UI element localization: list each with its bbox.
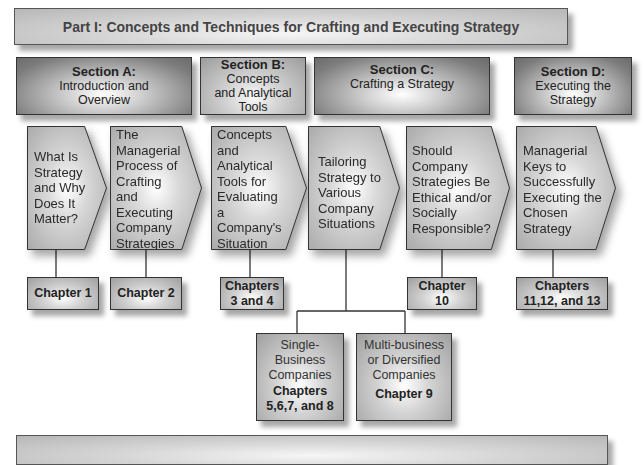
section-subtitle-line: Strategy (550, 93, 597, 107)
section-subtitle-line: Crafting a Strategy (350, 77, 454, 91)
topic-text: ConceptsandAnalyticalTools forEvaluating… (217, 127, 282, 251)
topic-chevron-4: TailoringStrategy toVariousCompanySituat… (308, 126, 400, 250)
section-subtitle-line: and Analytical (214, 86, 291, 100)
topic-text: ShouldCompanyStrategies BeEthical and/or… (412, 143, 492, 236)
section-c-header: Section C: Crafting a Strategy (314, 57, 490, 115)
chapter-label: Chapter 2 (117, 286, 175, 301)
chapter-box-2: Chapter 2 (110, 277, 182, 310)
chapter-box-3-4: Chapters 3 and 4 (220, 277, 284, 310)
sub-topic-line: Multi-business (364, 338, 444, 353)
section-title: Section B: (221, 58, 285, 72)
chapter-label: 3 and 4 (230, 294, 273, 309)
topic-chevron-3: ConceptsandAnalyticalTools forEvaluating… (211, 126, 307, 250)
bottom-banner (16, 435, 608, 465)
chapter-box-1: Chapter 1 (27, 277, 99, 310)
sub-topic-line: Business (275, 353, 326, 368)
section-title: Section D: (541, 65, 605, 79)
chapter-label: Chapters (225, 279, 279, 294)
section-subtitle-line: Introduction and (59, 79, 149, 93)
section-subtitle-line: Tools (238, 100, 267, 114)
sub-topic-line: or Diversified (368, 353, 441, 368)
part-title: Part I: Concepts and Techniques for Craf… (63, 19, 519, 35)
topic-text: ManagerialKeys toSuccessfullyExecuting t… (523, 143, 602, 236)
section-b-header: Section B: Concepts and Analytical Tools (200, 57, 306, 115)
topic-chevron-6: ManagerialKeys toSuccessfullyExecuting t… (516, 126, 616, 250)
section-subtitle-line: Executing the (535, 79, 611, 93)
topic-chevron-1: What IsStrategyand WhyDoes ItMatter? (27, 126, 107, 250)
chapter-label: Chapter 1 (34, 286, 92, 301)
topic-chevron-2: TheManagerialProcess ofCraftingandExecut… (110, 126, 202, 250)
part-banner: Part I: Concepts and Techniques for Craf… (14, 8, 568, 45)
topic-text: TailoringStrategy toVariousCompanySituat… (318, 154, 381, 232)
section-subtitle-line: Concepts (227, 72, 280, 86)
section-title: Section C: (370, 63, 434, 77)
section-title: Section A: (72, 65, 136, 79)
section-d-header: Section D: Executing the Strategy (514, 57, 632, 115)
section-a-header: Section A: Introduction and Overview (16, 57, 192, 115)
topic-chevron-5: ShouldCompanyStrategies BeEthical and/or… (406, 126, 510, 250)
chapter-label: Chapters (535, 279, 589, 294)
sub-topic-chapters: Chapters 5,6,7, and 8 (266, 384, 333, 414)
chapter-box-11-12-13: Chapters 11,12, and 13 (516, 277, 608, 310)
sub-topic-line: Companies (372, 368, 435, 383)
chapter-label: 11,12, and 13 (523, 294, 600, 309)
sub-topic-line: Companies (268, 368, 331, 383)
topic-text: TheManagerialProcess ofCraftingandExecut… (116, 127, 180, 251)
topic-text: What IsStrategyand WhyDoes ItMatter? (34, 149, 85, 227)
sub-topic-single-business: Single- Business Companies Chapters 5,6,… (256, 333, 344, 421)
sub-topic-chapters: Chapter 9 (375, 387, 433, 402)
sub-topic-multi-business: Multi-business or Diversified Companies … (356, 333, 452, 421)
chapter-label: 10 (435, 294, 449, 309)
sub-topic-line: Single- (281, 338, 320, 353)
section-subtitle-line: Overview (78, 93, 130, 107)
chapter-box-10: Chapter 10 (407, 277, 477, 310)
chapter-label: Chapter (418, 279, 465, 294)
